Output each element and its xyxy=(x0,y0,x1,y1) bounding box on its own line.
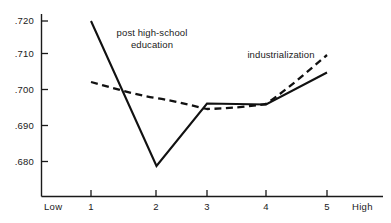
x-tick-label-5: 5 xyxy=(324,201,329,212)
y-tick-label-680: .680 xyxy=(2,156,34,167)
y-tick-label-690: .690 xyxy=(2,120,34,131)
y-tick-label-700: .700 xyxy=(2,84,34,95)
x-tick-label-3: 3 xyxy=(204,201,209,212)
x-axis-ticks xyxy=(91,190,327,197)
x-tick-label-1: 1 xyxy=(88,201,93,212)
y-tick-label-710: .710 xyxy=(2,48,34,59)
annotation-education: post high-school education xyxy=(117,27,188,50)
annotation-education-line-2: education xyxy=(117,39,188,51)
plot-area xyxy=(0,0,391,223)
annotation-industrialization-line-1: industrialization xyxy=(247,49,314,61)
annotation-education-line-1: post high-school xyxy=(117,27,188,39)
x-tick-label-4: 4 xyxy=(263,201,268,212)
y-axis-ticks xyxy=(42,21,49,162)
x-tick-label-2: 2 xyxy=(153,201,158,212)
annotation-industrialization: industrialization xyxy=(247,49,314,61)
x-axis-high-label: High xyxy=(352,201,373,212)
x-axis-low-label: Low xyxy=(44,201,62,212)
line-chart: .720 .710 .700 .690 .680 1 2 3 4 5 Low H… xyxy=(0,0,391,223)
y-tick-label-720: .720 xyxy=(2,15,34,26)
